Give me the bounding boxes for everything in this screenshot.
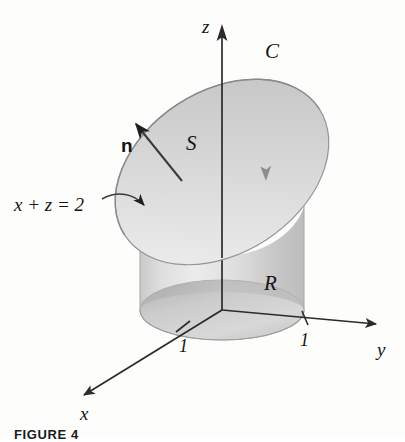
plane-equation-label: x + z = 2 [14,195,84,214]
region-label-R: R [264,273,277,294]
tick-label-y-1: 1 [300,331,309,349]
axis-label-z: z [202,17,209,36]
curve-label-C: C [265,41,279,62]
axis-label-x: x [80,404,88,423]
figure-caption: FIGURE 4 [14,427,79,442]
axis-label-y: y [377,340,385,359]
normal-vector-label-n: n [121,136,133,155]
tick-label-x-1: 1 [179,337,188,355]
surface-label-S: S [186,133,197,154]
